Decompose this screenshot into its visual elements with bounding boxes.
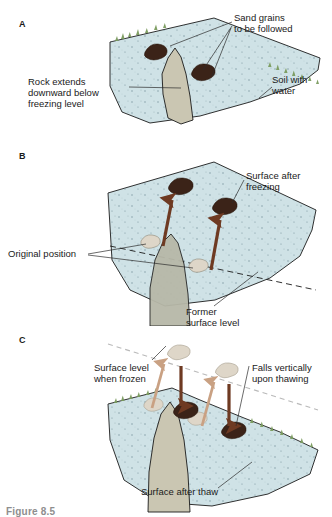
panel-a: A (0, 0, 332, 150)
label-sand-grains: Sand grains to be followed (234, 12, 293, 34)
label-rock-extends: Rock extends downward below freezing lev… (28, 76, 99, 109)
panel-c: C (0, 322, 332, 514)
label-surface-after-thaw: Surface after thaw (141, 486, 218, 497)
original-position-grain-icon (167, 345, 238, 378)
panel-b: B (0, 148, 332, 326)
label-surface-level-when-frozen: Surface level when frozen (94, 362, 149, 384)
label-original-position: Original position (8, 248, 76, 259)
label-falls-vertically: Falls vertically upon thawing (252, 362, 312, 384)
figure-caption: Figure 8.5 (6, 506, 55, 517)
label-soil-with-water: Soil with water (272, 74, 307, 96)
label-surface-after-freezing: Surface after freezing (246, 170, 300, 192)
